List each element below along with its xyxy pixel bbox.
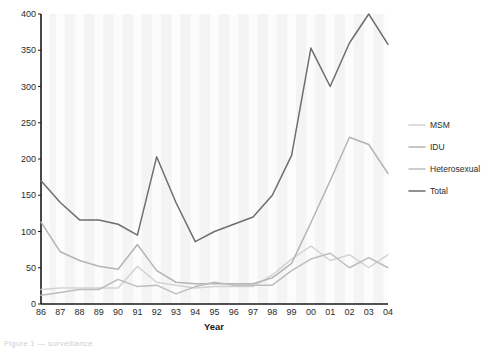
grid-band	[56, 14, 65, 304]
y-tick-label: 400	[21, 9, 36, 19]
y-tick-label: 50	[26, 263, 36, 273]
x-tick-label: 94	[190, 307, 200, 317]
grid-band	[172, 14, 181, 304]
x-tick-label: 89	[94, 307, 104, 317]
x-tick-label: 87	[55, 307, 65, 317]
grid-band	[268, 14, 277, 304]
y-tick-label: 100	[21, 227, 36, 237]
grid-band	[210, 14, 219, 304]
legend-label-msm: MSM	[430, 120, 450, 130]
x-tick-label: 90	[113, 307, 123, 317]
x-tick-label: 04	[383, 307, 393, 317]
x-tick-label: 02	[344, 307, 354, 317]
x-tick-label: 88	[75, 307, 85, 317]
x-tick-label: 96	[229, 307, 239, 317]
x-tick-label: 91	[132, 307, 142, 317]
grid-band	[114, 14, 123, 304]
x-tick-label: 93	[171, 307, 181, 317]
x-axis-title: Year	[204, 321, 224, 332]
figure-footnote: Figure 1 — surveillance	[4, 339, 93, 348]
y-tick-label: 350	[21, 45, 36, 55]
legend-label-total: Total	[430, 186, 448, 196]
grid-band	[133, 14, 142, 304]
x-tick-label: 01	[325, 307, 335, 317]
y-tick-label: 300	[21, 82, 36, 92]
x-tick-label: 99	[287, 307, 297, 317]
grid-band	[364, 14, 373, 304]
grid-band	[384, 14, 388, 304]
x-tick-label: 97	[248, 307, 258, 317]
x-tick-label: 95	[209, 307, 219, 317]
grid-band	[287, 14, 296, 304]
grid-band	[345, 14, 354, 304]
grid-band	[41, 14, 50, 304]
grid-band	[229, 14, 238, 304]
grid-band	[94, 14, 103, 304]
x-tick-label: 00	[306, 307, 316, 317]
grid-band	[191, 14, 200, 304]
x-tick-label: 03	[364, 307, 374, 317]
y-tick-label: 150	[21, 190, 36, 200]
x-tick-label: 86	[36, 307, 46, 317]
y-tick-label: 250	[21, 118, 36, 128]
x-tick-label: 92	[152, 307, 162, 317]
grid-band	[249, 14, 258, 304]
x-tick-label: 98	[267, 307, 277, 317]
legend-label-heterosexual: Heterosexual	[430, 164, 480, 174]
legend-label-idu: IDU	[430, 142, 445, 152]
y-tick-label: 200	[21, 154, 36, 164]
